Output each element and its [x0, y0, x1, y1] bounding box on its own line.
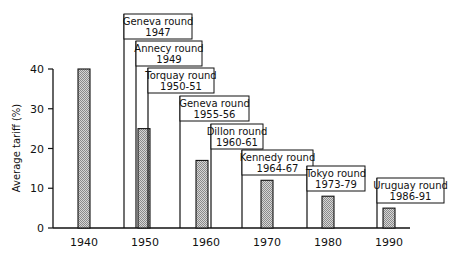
bar	[383, 208, 395, 228]
round-years: 1986-91	[390, 191, 432, 202]
y-axis-label: Average tariff (%)	[11, 104, 22, 193]
bar	[261, 180, 273, 228]
x-tick-label: 1960	[192, 236, 220, 249]
round-name: Tokyo round	[305, 168, 366, 179]
y-tick-label: 20	[30, 143, 44, 156]
y-tick-label: 40	[30, 63, 44, 76]
round-name: Geneva round	[123, 16, 194, 27]
round-name: Annecy round	[134, 43, 203, 54]
tariff-chart: 010203040Average tariff (%)1940195019601…	[0, 0, 459, 253]
x-tick-label: 1990	[375, 236, 403, 249]
bar	[196, 160, 208, 228]
round-name: Dillon round	[207, 126, 268, 137]
round-years: 1964-67	[257, 163, 299, 174]
round-name: Geneva round	[179, 98, 250, 109]
round-name: Uruguay round	[373, 180, 448, 191]
round-years: 1960-61	[216, 137, 258, 148]
x-tick-label: 1940	[70, 236, 98, 249]
y-tick-label: 10	[30, 182, 44, 195]
x-tick-label: 1980	[314, 236, 342, 249]
bar	[322, 196, 334, 228]
y-tick-label: 0	[37, 222, 44, 235]
y-tick-label: 30	[30, 103, 44, 116]
round-years: 1947	[145, 27, 170, 38]
round-years: 1955-56	[194, 109, 236, 120]
round-name: Kennedy round	[240, 152, 316, 163]
round-years: 1973-79	[315, 179, 357, 190]
round-name: Torquay round	[144, 70, 216, 81]
x-tick-label: 1950	[131, 236, 159, 249]
round-years: 1949	[156, 54, 181, 65]
bar	[78, 69, 90, 228]
round-years: 1950-51	[160, 81, 202, 92]
x-tick-label: 1970	[253, 236, 281, 249]
